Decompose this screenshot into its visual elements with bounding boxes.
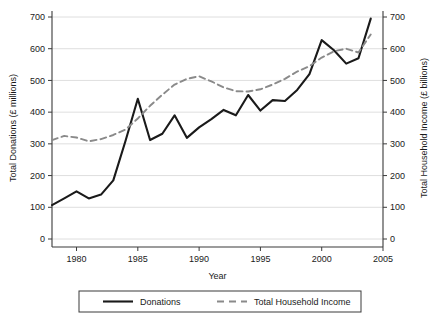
y2-tick-label: 100 (390, 202, 405, 212)
y-tick-label: 200 (30, 171, 45, 181)
legend-label-total-household-income: Total Household Income (254, 297, 351, 307)
y2-tick-label: 200 (390, 171, 405, 181)
y-axis-right-ticks: 0100200300400500600700 (383, 12, 405, 244)
y-axis-left-ticks: 0100200300400500600700 (30, 12, 52, 244)
x-tick-label: 1980 (67, 254, 87, 264)
y2-tick-label: 300 (390, 139, 405, 149)
y2-tick-label: 600 (390, 44, 405, 54)
chart-figure: 198019851990199520002005 010020030040050… (0, 0, 441, 322)
y2-tick-label: 0 (390, 234, 395, 244)
y-tick-label: 600 (30, 44, 45, 54)
y-tick-label: 400 (30, 107, 45, 117)
x-tick-label: 2005 (373, 254, 393, 264)
y-tick-label: 500 (30, 76, 45, 86)
line-chart: 198019851990199520002005 010020030040050… (0, 0, 441, 322)
y2-tick-label: 700 (390, 12, 405, 22)
y2-tick-label: 500 (390, 76, 405, 86)
x-axis-ticks: 198019851990199520002005 (67, 247, 394, 264)
legend-label-donations: Donations (140, 297, 181, 307)
y-tick-label: 300 (30, 139, 45, 149)
x-axis-title: Year (208, 271, 226, 281)
x-tick-label: 1995 (250, 254, 270, 264)
series-line-total-household-income (52, 34, 371, 141)
x-tick-label: 1990 (189, 254, 209, 264)
y-axis-left-title: Total Donations (£ millions) (8, 74, 18, 182)
y-axis-right-title: Total Household Income (£ billions) (419, 58, 429, 198)
chart-legend: DonationsTotal Household Income (79, 291, 361, 312)
y-tick-label: 700 (30, 12, 45, 22)
y-tick-label: 100 (30, 202, 45, 212)
x-tick-label: 2000 (312, 254, 332, 264)
y-tick-label: 0 (40, 234, 45, 244)
y2-tick-label: 400 (390, 107, 405, 117)
plot-frame-group (52, 11, 383, 247)
x-tick-label: 1985 (128, 254, 148, 264)
